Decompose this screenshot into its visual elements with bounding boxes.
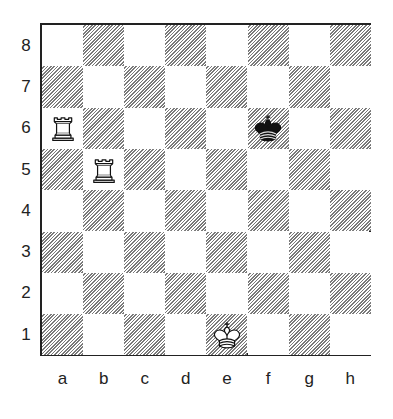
square-g4 [289, 190, 330, 231]
square-e6 [206, 108, 247, 149]
square-d1 [165, 314, 206, 355]
square-d6 [165, 108, 206, 149]
square-e7 [206, 66, 247, 107]
square-e1 [206, 314, 247, 355]
square-f2 [248, 273, 289, 314]
square-a2 [42, 273, 83, 314]
square-c3 [124, 232, 165, 273]
square-e2 [206, 273, 247, 314]
square-g8 [289, 25, 330, 66]
square-h6 [330, 108, 371, 149]
square-b4 [83, 190, 124, 231]
square-b5 [83, 149, 124, 190]
rank-label-3: 3 [18, 243, 34, 260]
square-h5 [330, 149, 371, 190]
rank-label-1: 1 [18, 326, 34, 343]
square-b6 [83, 108, 124, 149]
square-g7 [289, 66, 330, 107]
square-c4 [124, 190, 165, 231]
square-a8 [42, 25, 83, 66]
white-rook-icon [42, 108, 83, 149]
square-b1 [83, 314, 124, 355]
square-h2 [330, 273, 371, 314]
square-e3 [206, 232, 247, 273]
square-c6 [124, 108, 165, 149]
square-g5 [289, 149, 330, 190]
square-a6 [42, 108, 83, 149]
square-h7 [330, 66, 371, 107]
rank-label-6: 6 [18, 119, 34, 136]
black-king-icon [248, 108, 289, 149]
square-d4 [165, 190, 206, 231]
square-c2 [124, 273, 165, 314]
file-label-c: c [135, 370, 155, 387]
file-label-f: f [258, 370, 278, 387]
square-b2 [83, 273, 124, 314]
square-h3 [330, 232, 371, 273]
file-label-g: g [299, 370, 319, 387]
square-f4 [248, 190, 289, 231]
square-f6 [248, 108, 289, 149]
rank-label-4: 4 [18, 202, 34, 219]
rank-label-7: 7 [18, 78, 34, 95]
square-g2 [289, 273, 330, 314]
square-d5 [165, 149, 206, 190]
chess-diagram: 87654321 abcdefgh [0, 0, 393, 419]
square-h8 [330, 25, 371, 66]
square-e4 [206, 190, 247, 231]
rank-label-5: 5 [18, 161, 34, 178]
square-f8 [248, 25, 289, 66]
file-label-h: h [340, 370, 360, 387]
square-e5 [206, 149, 247, 190]
square-f1 [248, 314, 289, 355]
square-h1 [330, 314, 371, 355]
square-g3 [289, 232, 330, 273]
white-king-icon [206, 314, 247, 355]
square-a5 [42, 149, 83, 190]
square-b7 [83, 66, 124, 107]
square-c8 [124, 25, 165, 66]
square-g6 [289, 108, 330, 149]
white-rook-icon [83, 149, 124, 190]
square-f7 [248, 66, 289, 107]
chess-board [40, 23, 371, 356]
square-a3 [42, 232, 83, 273]
square-g1 [289, 314, 330, 355]
square-a1 [42, 314, 83, 355]
rank-label-8: 8 [18, 37, 34, 54]
square-b3 [83, 232, 124, 273]
square-a4 [42, 190, 83, 231]
square-a7 [42, 66, 83, 107]
file-label-e: e [217, 370, 237, 387]
square-c7 [124, 66, 165, 107]
square-f5 [248, 149, 289, 190]
square-d3 [165, 232, 206, 273]
square-h4 [330, 190, 371, 231]
square-c5 [124, 149, 165, 190]
square-f3 [248, 232, 289, 273]
file-label-b: b [94, 370, 114, 387]
file-label-a: a [53, 370, 73, 387]
file-label-d: d [176, 370, 196, 387]
square-d7 [165, 66, 206, 107]
rank-label-2: 2 [18, 284, 34, 301]
square-b8 [83, 25, 124, 66]
square-e8 [206, 25, 247, 66]
square-c1 [124, 314, 165, 355]
square-d2 [165, 273, 206, 314]
square-d8 [165, 25, 206, 66]
